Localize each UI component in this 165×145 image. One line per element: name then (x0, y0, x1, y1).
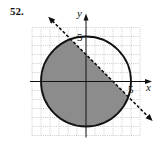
y-tick-label: 5 (77, 31, 83, 43)
x-axis-label: x (145, 81, 151, 93)
x-tick-label: 5 (128, 83, 134, 95)
region-graph: x y 5 5 (0, 0, 165, 145)
y-axis-label: y (76, 7, 82, 19)
